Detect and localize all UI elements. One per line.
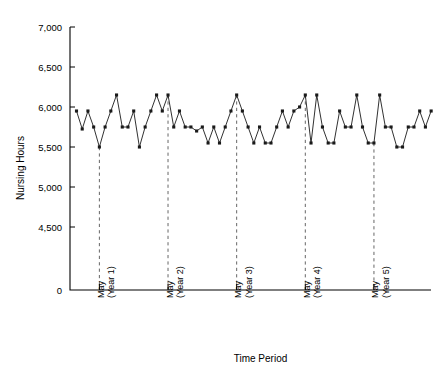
data-point [321,125,324,128]
data-point [304,93,307,96]
data-point [372,141,375,144]
x-tick-label-line2: (Year 4) [312,266,322,298]
data-point [189,125,192,128]
data-point [132,109,135,112]
y-axis-title: Nursing Hours [15,136,26,200]
data-point [412,125,415,128]
data-point [218,141,221,144]
data-point [149,109,152,112]
data-point [269,141,272,144]
data-point [367,141,370,144]
x-tick-label-line2: (Year 3) [244,266,254,298]
data-point [104,125,107,128]
data-point [144,125,147,128]
x-tick-label-line1: May [370,280,380,298]
y-tick-label: 4,500 [38,222,62,233]
data-point [121,125,124,128]
data-point [287,125,290,128]
x-tick-label-line1: May [302,280,312,298]
data-point [201,125,204,128]
data-point [338,109,341,112]
data-point [184,125,187,128]
data-point [407,125,410,128]
data-point [195,129,198,132]
data-point [355,93,358,96]
data-point [247,125,250,128]
x-tick-label-line1: May [233,280,243,298]
data-point [344,125,347,128]
x-tick-label-line2: (Year 1) [106,266,116,298]
data-point [309,141,312,144]
y-tick-label: 5,000 [38,182,62,193]
data-point [166,93,169,96]
data-point [258,125,261,128]
data-point [292,109,295,112]
data-point [430,109,433,112]
y-tick-label: 0 [57,285,62,296]
data-point [395,145,398,148]
data-point [172,125,175,128]
y-tick-label: 7,000 [38,22,62,33]
y-tick-label: 6,500 [38,62,62,73]
chart-axes [70,27,431,290]
data-point [281,109,284,112]
data-point [378,93,381,96]
x-tick-label-line2: (Year 5) [381,266,391,298]
data-point [86,109,89,112]
data-point [390,125,393,128]
data-point [315,93,318,96]
data-point [81,127,84,130]
data-point [424,125,427,128]
data-point [229,109,232,112]
data-point [98,145,101,148]
chart-figure: 7,0006,5006,0005,5005,0004,5000Nursing H… [0,0,441,371]
nursing-hours-line-chart: 7,0006,5006,0005,5005,0004,5000Nursing H… [0,0,441,371]
data-point [161,109,164,112]
data-point [327,141,330,144]
data-point [361,125,364,128]
data-point [212,125,215,128]
y-tick-label: 6,000 [38,102,62,113]
data-point [155,93,158,96]
data-point [401,145,404,148]
data-point [138,145,141,148]
x-axis-title: Time Period [234,353,288,364]
data-point [350,125,353,128]
data-point [178,109,181,112]
data-point [115,93,118,96]
x-tick-label-line1: May [96,280,106,298]
data-point [275,125,278,128]
y-tick-label: 5,500 [38,142,62,153]
series-line-nursing-hours [77,95,432,147]
x-tick-label-line2: (Year 2) [175,266,185,298]
data-point [126,125,129,128]
data-point [109,109,112,112]
data-point [241,109,244,112]
data-point [332,141,335,144]
data-point [92,125,95,128]
data-point [207,141,210,144]
data-point [264,141,267,144]
x-tick-label-line1: May [165,280,175,298]
data-point [384,125,387,128]
data-point [252,141,255,144]
data-point [298,105,301,108]
data-point [418,109,421,112]
data-point [75,109,78,112]
data-point [224,125,227,128]
data-point [235,93,238,96]
